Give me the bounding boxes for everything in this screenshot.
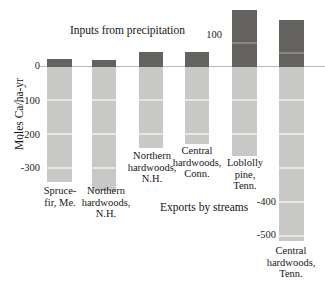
- annotation-exports-by-streams: Exports by streams: [160, 201, 248, 213]
- bar-positive-spruce-fir-me[interactable]: [47, 59, 72, 67]
- category-label-line-3: Tenn.: [216, 180, 274, 192]
- category-label-line-3: N.H.: [75, 208, 137, 220]
- bar-group-central-hardwoods-conn[interactable]: [185, 0, 209, 287]
- category-label-line-2: hardwoods,: [258, 257, 324, 269]
- bar-chart: Moles Ca/ha-yr 100 0 -100 -200 -300 -400…: [0, 0, 325, 287]
- y-tick-100: 100: [190, 29, 222, 40]
- bar-negative-loblolly-pine-tenn[interactable]: [232, 67, 257, 156]
- category-label-central-hardwoods-tenn: Central hardwoods, Tenn.: [258, 245, 324, 280]
- bar-negative-central-hardwoods-tenn[interactable]: [279, 67, 304, 241]
- y-tick-minus-100: -100: [10, 95, 40, 106]
- category-label-line-3: Tenn.: [258, 268, 324, 280]
- bar-positive-northern-hardwoods-nh-2[interactable]: [139, 52, 163, 67]
- bar-positive-loblolly-pine-tenn[interactable]: [232, 10, 257, 67]
- category-label-line-1: Northern: [75, 185, 137, 197]
- plot-area: Moles Ca/ha-yr 100 0 -100 -200 -300 -400…: [0, 0, 325, 287]
- bar-negative-central-hardwoods-conn[interactable]: [185, 67, 209, 144]
- bar-group-northern-hardwoods-nh-2[interactable]: [139, 0, 163, 287]
- bar-group-loblolly-pine-tenn[interactable]: [232, 0, 257, 287]
- bar-positive-northern-hardwoods-nh-1[interactable]: [92, 60, 116, 67]
- category-label-line-1: Central: [166, 145, 228, 157]
- bar-negative-spruce-fir-me[interactable]: [47, 67, 72, 182]
- bar-positive-central-hardwoods-tenn[interactable]: [279, 20, 304, 67]
- bar-group-central-hardwoods-tenn[interactable]: [279, 0, 304, 287]
- category-label-line-2: hardwoods,: [75, 197, 137, 209]
- annotation-inputs-from-precipitation: Inputs from precipitation: [70, 24, 185, 36]
- bar-negative-northern-hardwoods-nh-2[interactable]: [139, 67, 163, 148]
- y-axis-title: Moles Ca/ha-yr: [13, 59, 25, 169]
- category-label-loblolly-pine-tenn: Loblolly pine, Tenn.: [216, 157, 274, 192]
- y-tick-minus-300: -300: [10, 162, 40, 173]
- bar-group-spruce-fir-me[interactable]: [47, 0, 72, 287]
- y-tick-0: 0: [22, 60, 40, 71]
- bar-negative-northern-hardwoods-nh-1[interactable]: [92, 67, 116, 191]
- bar-group-northern-hardwoods-nh-1[interactable]: [92, 0, 116, 287]
- y-tick-minus-400: -400: [246, 196, 276, 207]
- y-tick-minus-500: -500: [246, 229, 276, 240]
- category-label-line-1: Central: [258, 245, 324, 257]
- category-label-northern-hardwoods-nh-1: Northern hardwoods, N.H.: [75, 185, 137, 220]
- category-label-line-1: Loblolly: [216, 157, 274, 169]
- bar-positive-central-hardwoods-conn[interactable]: [185, 52, 209, 67]
- category-label-line-2: pine,: [216, 169, 274, 181]
- y-tick-minus-200: -200: [10, 129, 40, 140]
